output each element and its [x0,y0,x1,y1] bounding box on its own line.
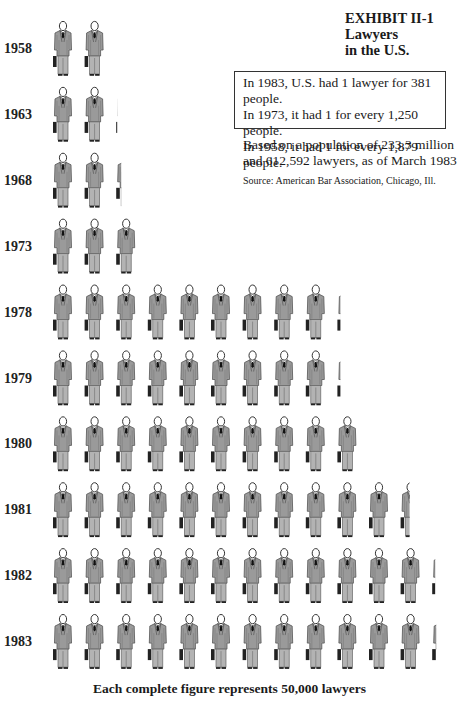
lawyer-figure [369,483,388,537]
lawyer-figure [401,549,420,603]
lawyer-figure [116,351,135,405]
lawyer-figure [85,549,104,603]
lawyer-figure [243,483,262,537]
lawyer-figure [337,483,356,537]
lawyer-figure-partial [337,285,356,339]
title-line-1: Lawyers [345,26,434,42]
lawyer-figure [306,483,325,537]
lawyer-figure [243,417,262,471]
year-label: 1981 [4,502,32,517]
lawyer-figure [401,615,420,669]
statistics-box: In 1983, U.S. had 1 lawyer for 381 peopl… [234,71,446,129]
lawyer-figure [53,21,72,75]
lawyer-figure [243,285,262,339]
lawyer-figure [53,417,72,471]
population-note: Based on a population of 233.3 million a… [243,137,459,169]
lawyer-figure [211,483,230,537]
lawyer-figure [306,549,325,603]
lawyer-figure [53,87,72,141]
lawyer-figure [337,615,356,669]
lawyer-figure [274,615,293,669]
row-1958: 1958 [4,21,103,75]
lawyer-figure [243,549,262,603]
year-label: 1979 [4,371,32,386]
row-1963: 1963 [4,87,135,141]
lawyer-figure [306,615,325,669]
year-label: 1982 [4,568,32,583]
lawyer-figure [148,285,167,339]
lawyer-figure [306,417,325,471]
lawyer-figure [179,417,198,471]
year-label: 1968 [4,173,32,188]
lawyer-figure [148,351,167,405]
lawyer-figure [179,351,198,405]
lawyer-figure [211,351,230,405]
chart-title: EXHIBIT II-1 Lawyers in the U.S. [345,10,434,58]
lawyer-figure [53,153,72,207]
lawyer-figure [369,615,388,669]
lawyer-figure [85,219,104,273]
lawyer-figure-partial [432,615,451,669]
lawyer-figure [85,21,104,75]
row-1979: 1979 [4,351,356,405]
lawyer-figure [85,285,104,339]
lawyer-figure [179,483,198,537]
year-label: 1983 [4,634,32,649]
lawyer-figure [148,483,167,537]
lawyer-figure [116,483,135,537]
row-1983: 1983 [4,615,451,669]
lawyer-figure [274,417,293,471]
lawyer-figure [179,549,198,603]
row-1978: 1978 [4,285,356,339]
lawyer-figure [243,351,262,405]
lawyer-figure [116,615,135,669]
lawyer-figure [337,549,356,603]
lawyer-figure-partial [401,483,420,537]
stat-line-1983: In 1983, U.S. had 1 lawyer for 381 peopl… [243,75,445,107]
lawyer-figure [148,549,167,603]
year-label: 1973 [4,239,32,254]
lawyer-figure [85,615,104,669]
lawyer-figure [179,615,198,669]
lawyer-figure [85,87,104,141]
row-1968: 1968 [4,153,135,207]
lawyer-figure [116,417,135,471]
lawyer-figure [337,417,356,471]
lawyer-figure [274,285,293,339]
year-label: 1980 [4,436,32,451]
lawyer-figure-partial [432,549,451,603]
lawyer-figure [179,285,198,339]
exhibit-label: EXHIBIT II-1 [345,10,434,26]
year-label: 1978 [4,305,32,320]
lawyer-figure [116,285,135,339]
year-label: 1963 [4,107,32,122]
lawyer-figure [211,285,230,339]
stat-line-1973: In 1973, it had 1 for every 1,250 people… [243,107,445,139]
lawyer-figure [85,153,104,207]
lawyer-figure [116,219,135,273]
lawyer-figure [116,549,135,603]
lawyer-figure [274,351,293,405]
row-1980: 1980 [4,417,356,471]
row-1973: 1973 [4,219,135,273]
lawyer-figure [85,417,104,471]
lawyer-figure [85,351,104,405]
lawyer-figure [243,615,262,669]
lawyer-figure [53,351,72,405]
title-line-2: in the U.S. [345,42,434,58]
lawyer-figure [148,615,167,669]
lawyer-figure [53,549,72,603]
lawyer-figure [85,483,104,537]
lawyer-figure [306,351,325,405]
lawyer-figure [306,285,325,339]
lawyer-figure [211,549,230,603]
row-1981: 1981 [4,483,419,537]
lawyer-figure [211,615,230,669]
lawyer-figure [369,549,388,603]
lawyer-figure-partial [337,351,356,405]
lawyer-figure [274,549,293,603]
lawyer-figure [211,417,230,471]
lawyer-figure [148,417,167,471]
row-1982: 1982 [4,549,451,603]
legend-footer: Each complete figure represents 50,000 l… [0,681,459,697]
